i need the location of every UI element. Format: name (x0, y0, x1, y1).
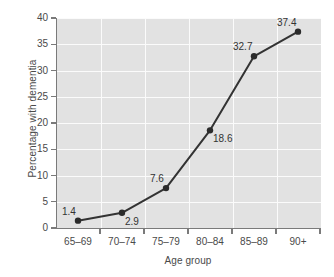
data-point-marker (75, 217, 81, 223)
y-axis-tick-label-wrap: 20 (12, 118, 48, 128)
x-axis-tick (275, 229, 276, 234)
y-axis-tick-label: 20 (18, 118, 48, 128)
y-axis-tick-label: 10 (18, 171, 48, 181)
y-axis-tick (51, 70, 56, 71)
y-axis-tick-label: 15 (18, 144, 48, 154)
dementia-by-age-line-chart: Percentage with dementia 1.42.97.618.632… (0, 0, 334, 277)
y-axis-tick (51, 17, 56, 18)
series-line (78, 32, 298, 221)
x-axis-tick-label: 90+ (268, 236, 328, 248)
y-axis-tick-label-wrap: 35 (12, 39, 48, 49)
y-axis-tick (51, 96, 56, 97)
y-axis-tick (51, 227, 56, 228)
x-axis-tick (143, 229, 144, 234)
y-axis-tick-label-wrap: 15 (12, 144, 48, 154)
y-axis-tick-label: 40 (18, 13, 48, 23)
x-axis-title: Age group (56, 255, 320, 266)
y-axis-tick-label-wrap: 40 (12, 13, 48, 23)
x-axis-tick (319, 229, 320, 234)
y-axis-tick (51, 122, 56, 123)
y-axis-tick (51, 149, 56, 150)
data-point-label: 1.4 (62, 207, 76, 217)
data-point-label: 2.9 (125, 217, 139, 227)
data-point-label: 18.6 (213, 134, 232, 144)
y-axis-tick (51, 175, 56, 176)
y-axis-tick (51, 201, 56, 202)
y-axis-tick-label-wrap: 5 (12, 197, 48, 207)
x-axis-tick (231, 229, 232, 234)
y-axis-tick-label-wrap: 10 (12, 171, 48, 181)
data-point-label: 32.7 (233, 42, 252, 52)
data-point-label: 7.6 (150, 174, 164, 184)
x-axis-tick (187, 229, 188, 234)
y-axis-tick-label-wrap: 30 (12, 66, 48, 76)
x-axis-tick (99, 229, 100, 234)
y-axis-tick-label: 5 (18, 197, 48, 207)
y-axis-tick-label: 0 (18, 223, 48, 233)
y-axis-tick-label-wrap: 0 (12, 223, 48, 233)
y-axis-tick-label: 35 (18, 39, 48, 49)
data-point-label: 37.4 (277, 18, 296, 28)
data-point-marker (251, 53, 257, 59)
y-axis-tick-label: 30 (18, 66, 48, 76)
data-point-marker (295, 28, 301, 34)
data-point-marker (163, 185, 169, 191)
y-axis-tick-label-wrap: 25 (12, 92, 48, 102)
y-axis-tick-label: 25 (18, 92, 48, 102)
y-axis-tick (51, 44, 56, 45)
